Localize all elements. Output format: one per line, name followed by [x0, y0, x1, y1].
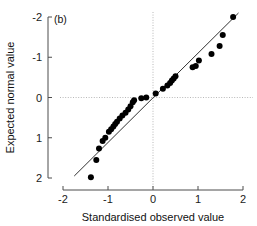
panel-label: (b) — [54, 13, 67, 25]
x-tick-label: -2 — [58, 193, 68, 205]
data-point — [173, 73, 179, 79]
data-point — [102, 135, 108, 141]
y-tick-label: 1 — [36, 132, 42, 144]
data-point — [143, 95, 149, 101]
data-point — [196, 57, 202, 63]
data-point — [217, 43, 223, 49]
data-point — [96, 146, 102, 152]
data-point — [230, 14, 236, 20]
y-tick-label: 0 — [36, 92, 42, 104]
x-tick-label: 0 — [150, 193, 156, 205]
data-point — [153, 90, 159, 96]
data-point — [131, 97, 137, 103]
axes-group — [48, 17, 243, 190]
data-point — [220, 32, 226, 38]
y-axis-title: Expected normal value — [4, 42, 16, 154]
x-tick-label: 2 — [240, 193, 246, 205]
data-point — [209, 51, 215, 57]
x-tick-label: -1 — [103, 193, 113, 205]
x-axis-title: Standardised observed value — [82, 211, 224, 223]
data-point — [193, 63, 199, 69]
y-tick-label: 2 — [36, 172, 42, 184]
y-tick-label: -1 — [32, 51, 42, 63]
data-point — [93, 157, 99, 163]
y-tick-label: -2 — [32, 11, 42, 23]
data-point — [88, 174, 94, 180]
plot-canvas: 210-1-2-2-1012Standardised observed valu… — [0, 0, 257, 226]
x-tick-label: 1 — [195, 193, 201, 205]
qq-plot-figure: 210-1-2-2-1012Standardised observed valu… — [0, 0, 257, 226]
